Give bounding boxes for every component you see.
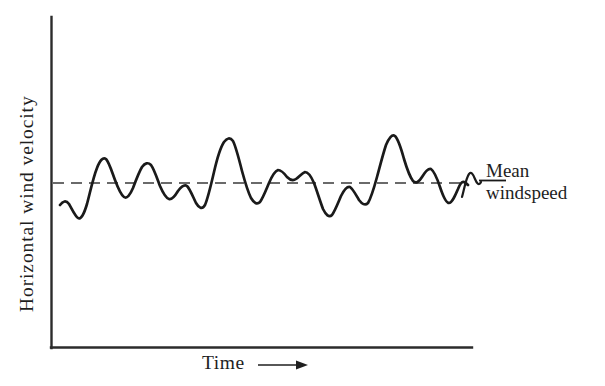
figure-container: Horizontal wind velocity Time Mean winds… — [0, 0, 605, 386]
legend-wave-icon — [462, 173, 481, 197]
x-axis-label: Time — [202, 352, 245, 374]
legend-label-line1: Mean — [486, 160, 567, 182]
wind-velocity-trace — [60, 135, 468, 218]
legend-label: Mean windspeed — [486, 160, 567, 204]
right-arrow-icon — [296, 361, 308, 370]
y-axis-label: Horizontal wind velocity — [16, 12, 38, 312]
legend-label-line2: windspeed — [486, 182, 567, 204]
